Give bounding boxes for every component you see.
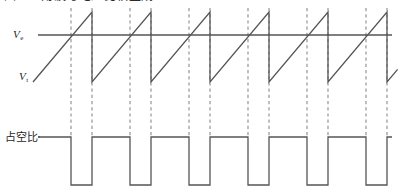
pwm-path [38, 137, 392, 185]
ve-label: Ve [13, 28, 23, 40]
sawtooth-path [33, 12, 398, 82]
sawtooth-waveform [33, 12, 398, 82]
dashed-guide-lines [71, 8, 387, 137]
pwm-pulse-waveform [38, 137, 392, 185]
vt-label-text: V [19, 70, 26, 82]
waveform-canvas [0, 0, 400, 195]
vt-label: Vt [19, 70, 28, 82]
duty-cycle-label: 占空比 [5, 131, 38, 144]
ve-label-subscript: e [20, 34, 23, 42]
ve-label-text: V [13, 28, 20, 40]
waveform-figure: 图4 三角波与电压比较生成PWM Ve Vt 占空比 [0, 0, 400, 195]
vt-label-subscript: t [26, 76, 28, 84]
